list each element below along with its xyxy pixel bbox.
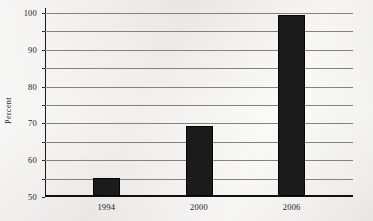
y-tick-label: 80: [28, 82, 37, 92]
gridline: [45, 50, 353, 51]
y-tick-mark: 90: [42, 31, 45, 32]
gridline: [45, 123, 353, 124]
y-tick-mark: 70: [42, 68, 45, 69]
gridline: [45, 13, 353, 14]
x-tick-label-1994: 1994: [97, 202, 115, 212]
y-tick-label: 90: [28, 45, 37, 55]
x-tick-label-2006: 2006: [283, 202, 301, 212]
x-tick-label-2000: 2000: [190, 202, 208, 212]
y-tick-mark: 0: [42, 197, 45, 198]
bar-chart-figure: Percent 0102030405060708090100 199420002…: [0, 0, 373, 221]
y-tick-label: 100: [24, 8, 37, 18]
gridline: [45, 105, 353, 106]
y-tick-label: 60: [28, 155, 37, 165]
bar-1994: [93, 178, 120, 196]
y-tick-mark: 40: [42, 123, 45, 124]
y-tick-mark: 50: [42, 105, 45, 106]
gridline: [45, 31, 353, 32]
y-tick-mark: 80: [42, 50, 45, 51]
y-tick-mark: 20: [42, 160, 45, 161]
gridline: [45, 87, 353, 88]
bar-2006: [278, 15, 305, 195]
x-axis-line: [45, 195, 354, 197]
y-tick-mark: 10: [42, 179, 45, 180]
gridline: [45, 68, 353, 69]
y-axis-line: [45, 8, 46, 197]
y-tick-label: 70: [28, 118, 37, 128]
y-tick-label: 50: [28, 192, 37, 202]
y-tick-mark: 60: [42, 87, 45, 88]
y-axis-title: Percent: [0, 0, 16, 221]
y-tick-mark: 30: [42, 142, 45, 143]
bar-2000: [186, 126, 213, 196]
plot-area: 0102030405060708090100 199420002006: [45, 13, 353, 197]
y-tick-mark: 100: [42, 13, 45, 14]
